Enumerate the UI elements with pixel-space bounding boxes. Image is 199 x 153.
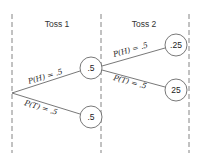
node-toss1-tails-value: .5: [87, 112, 94, 122]
label-toss2-tails: P(T) = .5: [112, 73, 148, 91]
header-toss-2: Toss 2: [132, 19, 157, 29]
header-toss-1: Toss 1: [45, 19, 70, 29]
probability-tree-diagram: Toss 1 Toss 2 P(H) = .5 P(T) = .5 P(H) =…: [0, 0, 199, 153]
label-toss1-tails: P(T) = .5: [22, 98, 58, 117]
node-toss1-heads-value: .5: [87, 63, 94, 73]
label-toss2-heads: P(H) = .5: [111, 40, 149, 59]
label-toss1-heads: P(H) = .5: [26, 67, 64, 86]
node-toss2-hh-value: .25: [170, 40, 182, 50]
node-toss2-ht-value: 25: [171, 85, 181, 95]
